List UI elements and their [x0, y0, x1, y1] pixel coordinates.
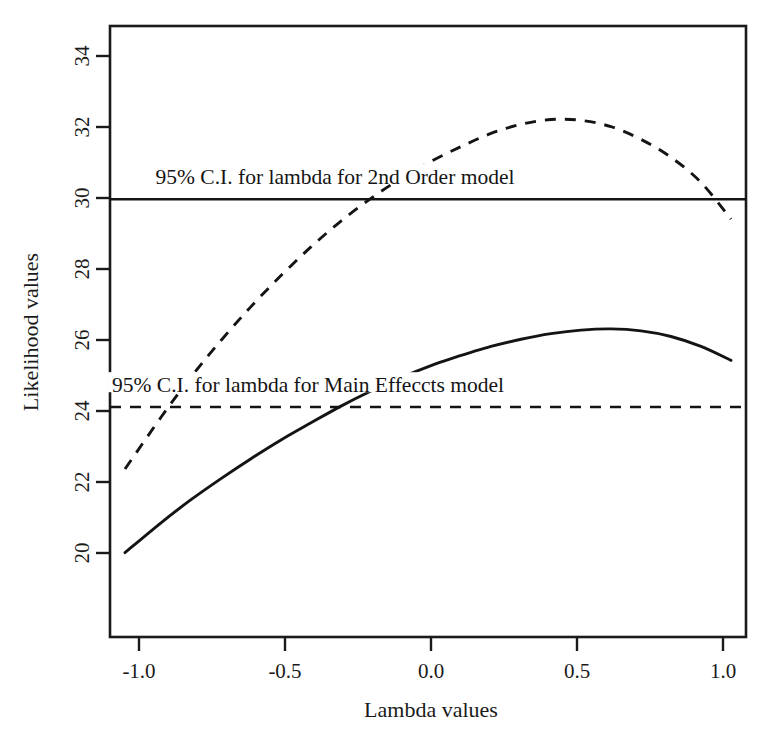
likelihood-plot-page: -1.0 -0.5 0.0 0.5 1.0 34 32 30 28 26 24 … [0, 0, 784, 740]
y-tick-label: 34 [70, 45, 94, 67]
x-axis-ticks [139, 637, 723, 651]
y-axis-title: Likelihood values [18, 253, 43, 411]
x-tick-label: 0.5 [564, 659, 590, 683]
y-tick-label: 30 [70, 188, 94, 209]
x-axis-title: Lambda values [364, 697, 498, 722]
y-tick-label: 24 [70, 400, 94, 422]
annotation-2nd-order-model: 95% C.I. for lambda for 2nd Order model [156, 165, 515, 189]
y-tick-label: 32 [70, 117, 94, 138]
x-tick-label: 1.0 [710, 659, 736, 683]
y-axis-ticks [96, 56, 110, 553]
y-axis-tick-labels: 34 32 30 28 26 24 22 20 [70, 45, 94, 564]
y-tick-label: 22 [70, 472, 94, 493]
likelihood-plot-figure: -1.0 -0.5 0.0 0.5 1.0 34 32 30 28 26 24 … [0, 0, 784, 740]
y-tick-label: 28 [70, 259, 94, 280]
x-axis-tick-labels: -1.0 -0.5 0.0 0.5 1.0 [122, 659, 736, 683]
y-tick-label: 26 [70, 330, 94, 351]
curve-main-effects-model [125, 329, 731, 553]
x-tick-label: -1.0 [122, 659, 155, 683]
x-tick-label: 0.0 [418, 659, 444, 683]
y-tick-label: 20 [70, 543, 94, 564]
x-tick-label: -0.5 [268, 659, 301, 683]
annotation-main-effects-model: 95% C.I. for lambda for Main Effeccts mo… [112, 373, 504, 397]
